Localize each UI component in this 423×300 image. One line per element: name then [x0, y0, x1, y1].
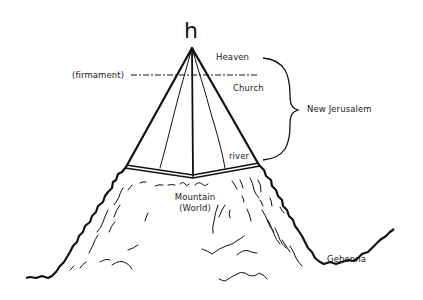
label-heaven: Heaven: [216, 52, 249, 62]
label-river: river: [229, 151, 249, 161]
label-world: (World): [155, 203, 235, 213]
label-firmament: (firmament): [72, 70, 124, 80]
label-new-jerusalem: New Jerusalem: [307, 104, 372, 114]
label-mountain: Mountain: [155, 192, 235, 202]
divine-symbol-h: h: [184, 20, 198, 42]
label-gehenna: Gehenna: [327, 254, 366, 264]
new-jerusalem-brace: [263, 58, 298, 160]
label-church: Church: [233, 83, 264, 93]
